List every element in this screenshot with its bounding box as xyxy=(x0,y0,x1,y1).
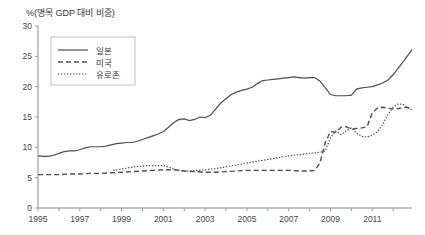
x-tick-group: 199519971999200120032005200720092011 xyxy=(29,208,394,224)
x-tick-label: 2007 xyxy=(279,214,298,224)
x-tick-label: 1995 xyxy=(29,214,48,224)
x-tick-label: 1997 xyxy=(70,214,89,224)
y-tick-label: 0 xyxy=(27,203,32,213)
y-tick-group: 051015202530 xyxy=(23,21,38,213)
y-tick-label: 5 xyxy=(27,173,32,183)
x-axis-group: 199519971999200120032005200720092011 xyxy=(29,208,412,224)
x-tick-label: 2001 xyxy=(154,214,173,224)
x-tick-label: 2005 xyxy=(237,214,256,224)
legend-label-eurozone: 유로존 xyxy=(96,70,120,80)
x-tick-label: 2003 xyxy=(196,214,215,224)
y-tick-label: 25 xyxy=(23,51,33,61)
x-tick-label: 1999 xyxy=(112,214,131,224)
y-axis-group: 051015202530 xyxy=(23,21,38,213)
y-tick-label: 15 xyxy=(23,112,33,122)
chart-container: %(명목 GDP 대비 비중) 051015202530 19951997199… xyxy=(0,0,425,235)
x-tick-label: 2009 xyxy=(321,214,340,224)
y-tick-label: 10 xyxy=(23,142,33,152)
x-tick-label: 2011 xyxy=(363,214,382,224)
line-chart-plot: 051015202530 199519971999200120032005200… xyxy=(0,0,425,235)
chart-legend: 일본 미국 유로존 xyxy=(51,37,135,85)
y-tick-label: 20 xyxy=(23,82,33,92)
legend-background xyxy=(51,37,135,85)
series-path-dashed xyxy=(38,107,412,174)
legend-label-usa: 미국 xyxy=(96,58,112,68)
legend-label-japan: 일본 xyxy=(96,46,112,56)
series-path-dotted xyxy=(113,104,412,171)
y-tick-label: 30 xyxy=(23,21,33,31)
